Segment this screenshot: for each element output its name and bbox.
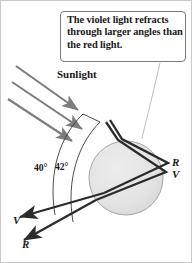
red-ray-label-left: R [22,238,29,250]
red-ray-label-right: R [172,156,179,168]
violet-ray-label-left: V [13,214,20,226]
arc-tick-top [83,114,100,122]
angle-label-40: 40° [34,162,47,173]
angle-label-42: 42° [55,161,68,172]
violet-ray-label-right: V [172,168,179,180]
violet-ray-exit [20,193,104,217]
sunlight-ray-3 [8,99,72,141]
callout-leader-line [142,63,160,138]
rainbow-refraction-figure: The violet light refracts through larger… [0,0,192,263]
callout-text: The violet light refracts through larger… [67,14,183,51]
arc-tick-marks [83,114,100,122]
sunlight-label: Sunlight [57,68,97,80]
